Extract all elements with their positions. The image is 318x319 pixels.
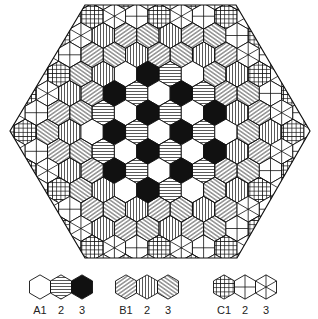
legend-label-b3: 3 [165, 304, 171, 316]
legend-label-c2: 2 [242, 304, 248, 316]
hex-cell-a1 [30, 275, 51, 299]
legend-group-a: A123 [30, 275, 93, 316]
hex-cell-a3 [72, 275, 93, 299]
tiling-canvas: A123B123C123 [0, 0, 318, 319]
hex-cell-b1 [116, 275, 137, 299]
legend-group-c: C123 [214, 275, 277, 316]
legend-label-a2: 2 [58, 304, 64, 316]
hex-cell-c3 [304, 119, 318, 145]
hex-cell-c2 [235, 275, 256, 299]
legend-label-b1: B1 [119, 304, 132, 316]
legend-label-c3: 3 [263, 304, 269, 316]
hex-grid [0, 0, 318, 280]
hex-cell-c2 [0, 119, 14, 145]
hexagonal-tiling-figure: A123B123C123 [0, 0, 318, 319]
legend-label-c1: C1 [217, 304, 231, 316]
hex-cell-a2 [51, 275, 72, 299]
hex-cell-c1 [214, 275, 235, 299]
legend-group-b: B123 [116, 275, 179, 316]
hex-cell-c3 [256, 275, 277, 299]
hex-cell-b3 [158, 275, 179, 299]
legend-label-a3: 3 [79, 304, 85, 316]
legend-label-a1: A1 [33, 304, 46, 316]
legend: A123B123C123 [30, 275, 277, 316]
legend-label-b2: 2 [144, 304, 150, 316]
hex-cell-b2 [137, 275, 158, 299]
